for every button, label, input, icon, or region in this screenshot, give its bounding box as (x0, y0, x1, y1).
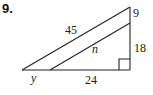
label-18: 18 (134, 41, 146, 55)
label-24: 24 (85, 73, 97, 87)
label-9: 9 (133, 6, 139, 20)
label-n: n (92, 42, 98, 56)
label-y: y (30, 71, 37, 85)
similar-triangles-diagram: 9. 45 n y 24 9 18 (0, 0, 153, 95)
problem-number: 9. (2, 1, 13, 16)
right-angle-marker (119, 59, 130, 70)
outer-hypotenuse (22, 7, 130, 70)
label-45: 45 (65, 23, 77, 37)
